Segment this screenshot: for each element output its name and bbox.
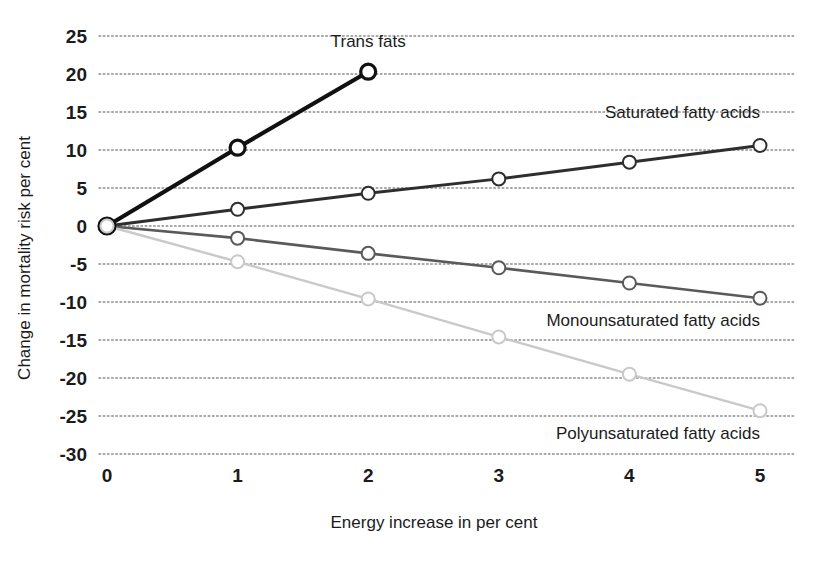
- x-tick-label: 5: [755, 465, 766, 486]
- data-point-marker: [623, 156, 636, 169]
- y-tick-label: -30: [60, 444, 87, 465]
- x-tick-label: 1: [232, 465, 243, 486]
- x-tick-label: 0: [102, 465, 113, 486]
- series-label: Saturated fatty acids: [605, 103, 760, 122]
- data-point-marker: [362, 187, 375, 200]
- data-point-marker: [754, 404, 767, 417]
- data-point-marker: [101, 220, 114, 233]
- data-point-marker: [623, 277, 636, 290]
- x-tick-label: 2: [363, 465, 374, 486]
- data-point-marker: [231, 255, 244, 268]
- y-tick-label: 15: [66, 102, 88, 123]
- data-point-marker: [623, 368, 636, 381]
- y-tick-label: 10: [66, 140, 87, 161]
- y-tick-label: 0: [76, 216, 87, 237]
- data-point-marker: [231, 232, 244, 245]
- data-point-marker: [754, 139, 767, 152]
- y-tick-label: -25: [60, 406, 88, 427]
- data-point-marker: [492, 172, 505, 185]
- y-tick-label: 25: [66, 26, 88, 47]
- series-label: Trans fats: [331, 32, 406, 51]
- data-point-marker: [362, 292, 375, 305]
- data-point-marker: [230, 140, 245, 155]
- data-point-marker: [492, 261, 505, 274]
- y-tick-label: -5: [70, 254, 87, 275]
- y-tick-label: -10: [60, 292, 87, 313]
- chart-container: 2520151050-5-10-15-20-25-30 012345 Trans…: [0, 0, 813, 579]
- y-tick-label: -15: [60, 330, 88, 351]
- data-point-marker: [492, 330, 505, 343]
- x-tick-label: 4: [624, 465, 635, 486]
- x-axis-title: Energy increase in per cent: [331, 513, 538, 532]
- series-label: Monounsaturated fatty acids: [546, 311, 760, 330]
- y-axis-title: Change in mortality risk per cent: [15, 136, 34, 380]
- data-point-marker: [361, 64, 376, 79]
- x-tick-label: 3: [494, 465, 505, 486]
- data-point-marker: [362, 247, 375, 260]
- y-tick-label: -20: [60, 368, 87, 389]
- y-tick-label: 20: [66, 64, 87, 85]
- line-chart: 2520151050-5-10-15-20-25-30 012345 Trans…: [0, 0, 813, 579]
- y-tick-label: 5: [76, 178, 87, 199]
- data-point-marker: [754, 292, 767, 305]
- data-point-marker: [231, 203, 244, 216]
- series-label: Polyunsaturated fatty acids: [556, 424, 760, 443]
